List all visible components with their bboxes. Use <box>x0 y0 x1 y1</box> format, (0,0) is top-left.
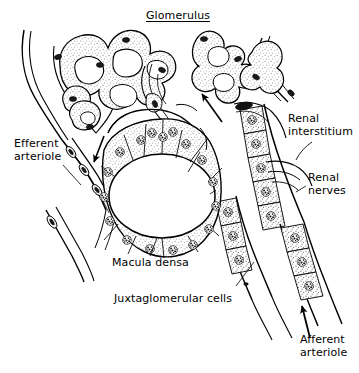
afferent-arteriole-vessel <box>216 104 342 340</box>
macula-densa-tubule <box>100 110 222 259</box>
juxtaglomerular-apparatus-figure: Glomerulus Efferent arteriole Renal inte… <box>0 0 359 373</box>
label-efferent-arteriole: Efferent arteriole <box>14 138 61 163</box>
label-juxtaglomerular-cells: Juxtaglomerular cells <box>114 293 232 306</box>
label-renal-interstitium: Renal interstitium <box>288 113 353 138</box>
label-macula-densa: Macula densa <box>112 257 189 270</box>
label-renal-nerves: Renal nerves <box>308 172 346 197</box>
leader-efferent-arteriole <box>63 165 81 185</box>
histology-line-art <box>0 0 359 373</box>
label-afferent-arteriole: Afferent arteriole <box>300 334 347 359</box>
label-glomerulus: Glomerulus <box>146 10 210 23</box>
